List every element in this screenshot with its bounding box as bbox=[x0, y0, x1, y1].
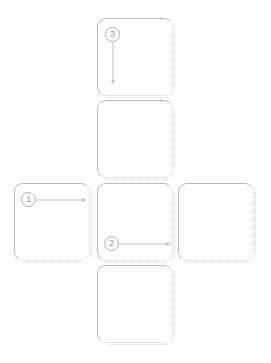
arrow-shaft bbox=[112, 42, 113, 84]
step-badge-3[interactable]: 3 bbox=[105, 27, 120, 42]
step-badge-2[interactable]: 2 bbox=[104, 236, 119, 251]
card-middle[interactable] bbox=[97, 100, 173, 178]
arrow-head bbox=[166, 242, 170, 246]
arrow-head bbox=[111, 80, 115, 84]
step-1-arrow-right-icon bbox=[35, 194, 86, 205]
card-right[interactable] bbox=[178, 183, 254, 261]
card-bottom[interactable] bbox=[97, 265, 173, 343]
step-3-arrow-down-icon bbox=[107, 42, 118, 84]
step-badge-1[interactable]: 1 bbox=[21, 192, 36, 207]
arrow-shaft bbox=[118, 243, 170, 244]
arrow-shaft bbox=[35, 199, 86, 200]
diagram-canvas: 1 2 3 bbox=[0, 0, 271, 363]
step-2-arrow-right-icon bbox=[118, 238, 170, 249]
arrow-head bbox=[82, 198, 86, 202]
